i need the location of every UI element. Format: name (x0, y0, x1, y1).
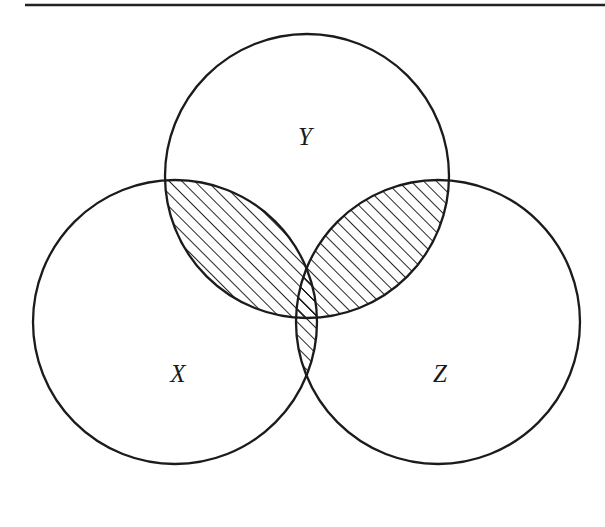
region-y-and-z-fill (296, 180, 580, 464)
set-label-x: X (169, 360, 187, 387)
region-y-and-z (296, 180, 580, 464)
shaded-regions-group (165, 34, 580, 464)
set-label-y: Y (298, 123, 315, 150)
venn-diagram-figure: Y X Z (0, 0, 605, 527)
venn-diagram-canvas: Y X Z (0, 0, 605, 527)
set-label-z: Z (433, 360, 448, 387)
circle-outlines-group (33, 34, 580, 464)
